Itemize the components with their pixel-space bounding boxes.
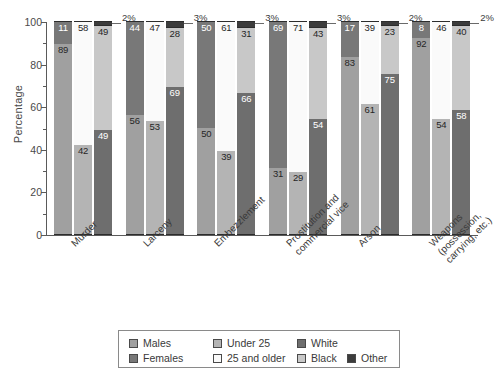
bar-segment[interactable]: 58 bbox=[74, 21, 92, 145]
bar-segment-value: 47 bbox=[146, 23, 164, 33]
bar-group: 505039616631 bbox=[197, 22, 255, 235]
callout-leader-line bbox=[184, 23, 193, 24]
bar-segment[interactable]: 39 bbox=[361, 21, 379, 104]
bar-segment-value: 8 bbox=[412, 23, 430, 33]
bar-segment[interactable]: 61 bbox=[217, 21, 235, 151]
bar-segment[interactable]: 56 bbox=[126, 115, 144, 234]
bar-segment-value: 23 bbox=[381, 27, 399, 37]
y-tick-minor bbox=[43, 43, 46, 44]
bar-segment-value: 39 bbox=[217, 152, 235, 162]
y-tick-label: 100 bbox=[12, 16, 42, 28]
bar-group: 564453476928 bbox=[126, 22, 184, 235]
bar-segment[interactable] bbox=[94, 21, 112, 25]
other-percent-callout: 3% bbox=[194, 12, 208, 23]
bar-segment[interactable] bbox=[452, 21, 470, 25]
stacked-bar-sex[interactable]: 928 bbox=[412, 22, 430, 235]
stacked-bar-sex[interactable]: 3169 bbox=[269, 22, 287, 235]
legend-entry[interactable]: Under 25 bbox=[213, 337, 270, 349]
callout-leader-line bbox=[327, 23, 336, 24]
bar-segment-value: 50 bbox=[197, 129, 215, 139]
bar-segment[interactable]: 47 bbox=[146, 21, 164, 121]
bar-segment[interactable] bbox=[166, 21, 184, 27]
legend-entry[interactable]: Males bbox=[129, 337, 171, 349]
legend-swatch bbox=[129, 339, 138, 348]
stacked-bar-age[interactable]: 6139 bbox=[361, 22, 379, 235]
y-tick-label: 0 bbox=[12, 229, 42, 241]
bar-segment[interactable]: 8 bbox=[412, 21, 430, 38]
legend-swatch bbox=[129, 354, 138, 363]
bar-segment[interactable]: 28 bbox=[166, 27, 184, 87]
stacked-bar-race[interactable]: 4949 bbox=[94, 22, 112, 235]
bar-segment-value: 61 bbox=[217, 23, 235, 33]
bar-segment[interactable]: 17 bbox=[341, 21, 359, 57]
legend-label: White bbox=[311, 337, 338, 349]
stacked-bar-age[interactable]: 4258 bbox=[74, 22, 92, 235]
stacked-bar-race[interactable]: 6928 bbox=[166, 22, 184, 235]
legend-entry[interactable]: White bbox=[297, 337, 338, 349]
bar-segment[interactable]: 50 bbox=[197, 128, 215, 235]
y-tick-minor bbox=[43, 214, 46, 215]
bar-segment[interactable]: 43 bbox=[309, 27, 327, 119]
stacked-bar-age[interactable]: 3961 bbox=[217, 22, 235, 235]
legend-swatch bbox=[347, 354, 356, 363]
bar-segment[interactable] bbox=[237, 21, 255, 27]
other-percent-callout: 2% bbox=[409, 12, 423, 23]
bar-segment-value: 50 bbox=[197, 23, 215, 33]
y-tick-major bbox=[41, 107, 46, 108]
bar-segment[interactable]: 11 bbox=[54, 21, 72, 44]
bar-segment[interactable] bbox=[309, 21, 327, 27]
bar-segment-value: 49 bbox=[94, 131, 112, 141]
bar-segment[interactable]: 23 bbox=[381, 25, 399, 74]
bar-segment[interactable] bbox=[381, 21, 399, 25]
bar-segment[interactable]: 89 bbox=[54, 44, 72, 234]
other-percent-callout: 2% bbox=[480, 12, 494, 23]
legend-label: 25 and older bbox=[227, 352, 285, 364]
legend-label: Other bbox=[361, 352, 387, 364]
y-tick-major bbox=[41, 235, 46, 236]
bar-segment-value: 75 bbox=[381, 75, 399, 85]
legend-entry[interactable]: Black bbox=[297, 352, 337, 364]
stacked-bar-sex[interactable]: 5644 bbox=[126, 22, 144, 235]
stacked-bar-race[interactable]: 7523 bbox=[381, 22, 399, 235]
bar-segment-value: 92 bbox=[412, 39, 430, 49]
legend-entry[interactable]: 25 and older bbox=[213, 352, 285, 364]
legend-entry[interactable]: Females bbox=[129, 352, 183, 364]
bar-segment-value: 42 bbox=[74, 146, 92, 156]
bar-segment[interactable]: 54 bbox=[432, 119, 450, 234]
bar-segment[interactable]: 44 bbox=[126, 21, 144, 115]
stacked-bar-age[interactable]: 5446 bbox=[432, 22, 450, 235]
bar-segment-value: 31 bbox=[237, 29, 255, 39]
legend-label: Black bbox=[311, 352, 337, 364]
y-tick-major bbox=[41, 192, 46, 193]
bar-segment[interactable]: 31 bbox=[269, 168, 287, 234]
bar-segment[interactable]: 75 bbox=[381, 74, 399, 234]
bar-segment-value: 43 bbox=[309, 29, 327, 39]
bar-segment[interactable]: 49 bbox=[94, 130, 112, 234]
callout-leader-line bbox=[112, 23, 121, 24]
bar-segment[interactable]: 49 bbox=[94, 25, 112, 129]
bar-segment[interactable]: 61 bbox=[361, 104, 379, 234]
legend-swatch bbox=[213, 339, 222, 348]
bar-segment[interactable]: 53 bbox=[146, 121, 164, 234]
bar-group: 316929715443 bbox=[269, 22, 327, 235]
bar-segment[interactable]: 71 bbox=[289, 21, 307, 172]
bar-segment[interactable]: 69 bbox=[166, 87, 184, 234]
legend-entry[interactable]: Other bbox=[347, 352, 387, 364]
y-tick-major bbox=[41, 22, 46, 23]
stacked-bar-age[interactable]: 2971 bbox=[289, 22, 307, 235]
bar-segment[interactable]: 50 bbox=[197, 21, 215, 128]
bar-segment[interactable]: 31 bbox=[237, 27, 255, 93]
bar-segment[interactable]: 40 bbox=[452, 25, 470, 110]
stacked-bar-sex[interactable]: 5050 bbox=[197, 22, 215, 235]
y-axis-tick-labels: 020406080100 bbox=[8, 0, 42, 387]
legend-label: Females bbox=[143, 352, 183, 364]
stacked-bar-age[interactable]: 5347 bbox=[146, 22, 164, 235]
bar-segment-value: 89 bbox=[54, 45, 72, 55]
y-tick-major bbox=[41, 150, 46, 151]
bar-segment-value: 17 bbox=[341, 23, 359, 33]
bar-segment[interactable]: 46 bbox=[432, 21, 450, 119]
stacked-bar-sex[interactable]: 8911 bbox=[54, 22, 72, 235]
bar-segment[interactable]: 69 bbox=[269, 21, 287, 168]
bar-segment[interactable]: 92 bbox=[412, 38, 430, 234]
